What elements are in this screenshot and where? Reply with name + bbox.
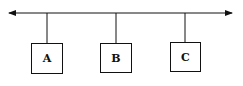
label-a: A bbox=[42, 52, 52, 65]
bus-diagram: A B C bbox=[0, 0, 243, 86]
label-c: C bbox=[181, 51, 190, 64]
node-b: B bbox=[101, 13, 132, 73]
node-a: A bbox=[32, 13, 63, 74]
node-c: C bbox=[171, 13, 201, 72]
label-b: B bbox=[111, 52, 120, 65]
